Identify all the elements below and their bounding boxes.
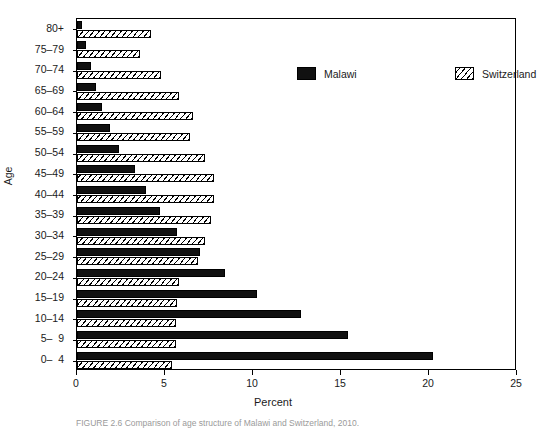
x-axis-tick-label: 15 xyxy=(334,377,346,389)
bar-group xyxy=(77,164,515,185)
bar-group xyxy=(77,288,515,309)
y-axis-tick-label: 15–19 xyxy=(35,292,64,303)
bar-switzerland[interactable] xyxy=(77,30,151,38)
bar-switzerland[interactable] xyxy=(77,278,179,286)
y-axis-labels: 80+75–7970–7465–6960–6455–5950–5445–4940… xyxy=(0,18,70,370)
bar-switzerland[interactable] xyxy=(77,154,205,162)
y-axis-tick xyxy=(73,361,77,362)
y-axis-tick-label: 40–44 xyxy=(35,189,64,200)
bar-group xyxy=(77,247,515,268)
bar-malawi[interactable] xyxy=(77,21,82,29)
bar-malawi[interactable] xyxy=(77,186,146,194)
bar-malawi[interactable] xyxy=(77,103,102,111)
x-axis-title: Percent xyxy=(0,396,546,408)
x-axis-tick-label: 10 xyxy=(246,377,258,389)
plot-area xyxy=(77,19,515,369)
y-axis-tick-label: 20–24 xyxy=(35,271,64,282)
bar-switzerland[interactable] xyxy=(77,174,214,182)
legend-label: Malawi xyxy=(324,68,357,80)
bar-group xyxy=(77,350,515,371)
y-axis-tick xyxy=(73,319,77,320)
bar-switzerland[interactable] xyxy=(77,133,190,141)
y-axis-tick xyxy=(73,340,77,341)
y-axis-tick-label: 10–14 xyxy=(35,313,64,324)
x-axis-tick xyxy=(516,370,517,375)
bar-malawi[interactable] xyxy=(77,290,257,298)
figure-caption: FIGURE 2.6 Comparison of age structure o… xyxy=(76,418,534,428)
x-axis-tick-label: 25 xyxy=(510,377,522,389)
bar-group xyxy=(77,81,515,102)
x-axis-tick-label: 5 xyxy=(161,377,167,389)
y-axis-tick-label: 60–64 xyxy=(35,106,64,117)
bar-malawi[interactable] xyxy=(77,331,348,339)
bar-malawi[interactable] xyxy=(77,124,110,132)
bar-malawi[interactable] xyxy=(77,207,160,215)
y-axis-tick xyxy=(73,216,77,217)
bar-malawi[interactable] xyxy=(77,165,135,173)
bar-switzerland[interactable] xyxy=(77,257,198,265)
bar-switzerland[interactable] xyxy=(77,237,205,245)
x-axis-tick xyxy=(340,370,341,375)
y-axis-tick-label: 55–59 xyxy=(35,126,64,137)
y-axis-tick-label: 50–54 xyxy=(35,147,64,158)
y-axis-tick xyxy=(73,236,77,237)
bar-switzerland[interactable] xyxy=(77,319,176,327)
bar-malawi[interactable] xyxy=(77,269,225,277)
bar-group xyxy=(77,40,515,61)
bar-malawi[interactable] xyxy=(77,62,91,70)
x-axis-tick-label: 0 xyxy=(73,377,79,389)
bar-malawi[interactable] xyxy=(77,83,96,91)
legend-label: Switzerland xyxy=(482,68,536,80)
bar-group xyxy=(77,226,515,247)
x-axis-tick-label: 20 xyxy=(422,377,434,389)
bar-switzerland[interactable] xyxy=(77,112,193,120)
y-axis-tick-label: 45–49 xyxy=(35,168,64,179)
bar-switzerland[interactable] xyxy=(77,195,214,203)
y-axis-tick-label: 30–34 xyxy=(35,230,64,241)
y-axis-tick-label: 70–74 xyxy=(35,64,64,75)
y-axis-tick-label: 0– 4 xyxy=(41,354,64,365)
legend-item-malawi[interactable]: Malawi xyxy=(297,67,357,80)
bar-switzerland[interactable] xyxy=(77,216,211,224)
legend-swatch-icon xyxy=(297,67,316,80)
bar-malawi[interactable] xyxy=(77,145,119,153)
y-axis-tick-label: 75–79 xyxy=(35,44,64,55)
y-axis-tick xyxy=(73,154,77,155)
x-axis-tick-labels: 0510152025 xyxy=(76,377,516,393)
bar-switzerland[interactable] xyxy=(77,299,177,307)
y-axis-tick-label: 35–39 xyxy=(35,209,64,220)
bar-group xyxy=(77,330,515,351)
y-axis-tick-label: 80+ xyxy=(46,23,64,34)
bar-switzerland[interactable] xyxy=(77,71,161,79)
bar-malawi[interactable] xyxy=(77,352,433,360)
bar-group xyxy=(77,309,515,330)
x-axis-tick xyxy=(164,370,165,375)
y-axis-tick xyxy=(73,133,77,134)
plot-frame: MalawiSwitzerland xyxy=(76,18,516,370)
bar-group xyxy=(77,60,515,81)
bar-malawi[interactable] xyxy=(77,228,177,236)
y-axis-tick xyxy=(73,299,77,300)
bar-malawi[interactable] xyxy=(77,310,301,318)
bar-switzerland[interactable] xyxy=(77,361,172,369)
y-axis-title: Age xyxy=(2,167,14,186)
y-axis-tick xyxy=(73,257,77,258)
bar-malawi[interactable] xyxy=(77,41,86,49)
y-axis-tick xyxy=(73,174,77,175)
bar-switzerland[interactable] xyxy=(77,340,176,348)
bar-switzerland[interactable] xyxy=(77,92,179,100)
bar-group xyxy=(77,102,515,123)
legend-item-switzerland[interactable]: Switzerland xyxy=(455,67,536,80)
legend-swatch-icon xyxy=(455,67,474,80)
bar-malawi[interactable] xyxy=(77,248,200,256)
y-axis-tick xyxy=(73,29,77,30)
y-axis-tick xyxy=(73,278,77,279)
x-axis-tick xyxy=(76,370,77,375)
x-axis-tick xyxy=(428,370,429,375)
y-axis-tick-label: 5– 9 xyxy=(41,333,64,344)
bar-group xyxy=(77,205,515,226)
y-axis-tick xyxy=(73,71,77,72)
bar-switzerland[interactable] xyxy=(77,50,140,58)
bar-group xyxy=(77,123,515,144)
